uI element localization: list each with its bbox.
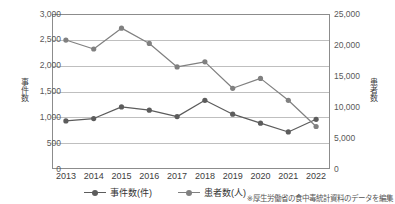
legend-label: 患者数(人) [204, 186, 246, 199]
x-axis-tick-label: 2021 [273, 172, 303, 181]
left-axis-tick-label: 1,500 [40, 87, 61, 96]
left-axis-tick-label: 2,500 [40, 35, 61, 44]
data-point [63, 37, 68, 42]
right-axis-tick-label: 20,000 [334, 41, 360, 50]
legend-marker-icon [84, 188, 106, 197]
left-axis-title: 事件数 [20, 79, 29, 103]
right-axis-tick-label: 25,000 [334, 10, 360, 19]
right-axis-tick-label: 10,000 [334, 103, 360, 112]
series-layer [52, 14, 330, 169]
data-point [63, 118, 68, 123]
x-axis-tick-label: 2019 [218, 172, 248, 181]
data-point [258, 121, 263, 126]
x-axis-tick-label: 2016 [134, 172, 164, 181]
data-point [258, 76, 263, 81]
data-point [175, 114, 180, 119]
data-point [202, 59, 207, 64]
data-point [119, 26, 124, 31]
x-axis-tick-label: 2013 [51, 172, 81, 181]
data-point [230, 112, 235, 117]
right-axis-tick-label: 5,000 [334, 134, 355, 143]
data-point [286, 98, 291, 103]
data-point [202, 98, 207, 103]
data-point [91, 116, 96, 121]
left-axis-tick-label: 2,000 [40, 61, 61, 70]
source-footnote: ※厚生労働省の食中毒統計資料のデータを編集 [247, 192, 393, 203]
series-line [66, 100, 316, 132]
legend-marker-icon [178, 188, 200, 197]
chart-legend: 事件数(件)患者数(人) [52, 186, 278, 199]
right-axis-tick-label: 15,000 [334, 72, 360, 81]
right-axis-title: 患者数 [369, 79, 378, 103]
data-point [314, 124, 319, 129]
data-point [119, 104, 124, 109]
left-axis-tick-label: 3,000 [40, 10, 61, 19]
data-point [286, 129, 291, 134]
legend-item[interactable]: 事件数(件) [84, 186, 152, 199]
x-axis-tick-label: 2015 [107, 172, 137, 181]
data-point [314, 117, 319, 122]
data-point [91, 46, 96, 51]
x-axis-tick-label: 2022 [301, 172, 331, 181]
data-point [147, 108, 152, 113]
series-line [66, 28, 316, 126]
data-point [147, 41, 152, 46]
x-axis-tick-label: 2017 [162, 172, 192, 181]
data-point [175, 64, 180, 69]
data-point [230, 86, 235, 91]
left-axis-tick-label: 500 [47, 139, 61, 148]
legend-label: 事件数(件) [110, 186, 152, 199]
legend-item[interactable]: 患者数(人) [178, 186, 246, 199]
x-axis-tick-label: 2014 [79, 172, 109, 181]
left-axis-tick-label: 1,000 [40, 113, 61, 122]
right-axis-tick-label: 0 [334, 165, 339, 174]
food-poisoning-chart: 事件数 患者数 事件数(件)患者数(人) ※厚生労働省の食中毒統計資料のデータを… [0, 0, 395, 204]
x-axis-tick-label: 2020 [246, 172, 276, 181]
x-axis-tick-label: 2018 [190, 172, 220, 181]
